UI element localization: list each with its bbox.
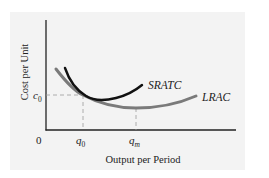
origin-label: 0 bbox=[36, 134, 42, 146]
y-axis-title: Cost per Unit bbox=[19, 44, 30, 101]
x-axis-title: Output per Period bbox=[105, 154, 181, 165]
sratc-label: SRATC bbox=[148, 79, 182, 91]
c0-tick-label: c0 bbox=[33, 89, 42, 104]
qm-tick-label: qm bbox=[129, 134, 141, 149]
chart: SRATC LRAC c0 0 q0 qm Output per Period … bbox=[0, 0, 269, 178]
lrac-label: LRAC bbox=[201, 91, 230, 103]
q0-tick-label: q0 bbox=[76, 134, 86, 149]
